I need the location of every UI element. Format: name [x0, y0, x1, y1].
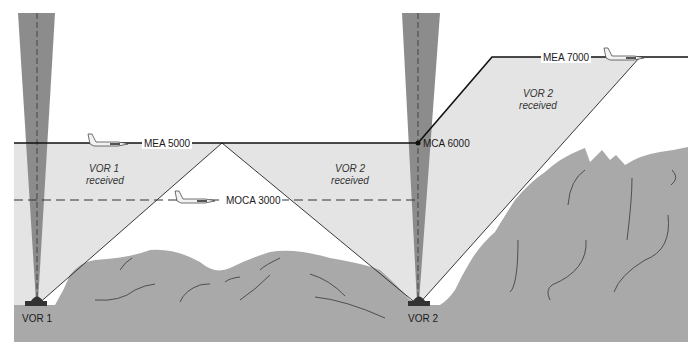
aircraft-icon — [88, 134, 128, 146]
mca-6000-label: MCA 6000 — [423, 138, 470, 149]
moca-3000-label: MOCA 3000 — [224, 195, 282, 206]
vor2-high-received-label: VOR 2 received — [518, 88, 558, 112]
mca-point — [416, 141, 421, 146]
aircraft-icon — [604, 48, 644, 60]
vor1-station-label: VOR 1 — [22, 313, 52, 324]
vor1-received-label: VOR 1 received — [86, 163, 122, 187]
mea-7000-label: MEA 7000 — [541, 52, 591, 63]
mea-5000-label: MEA 5000 — [142, 138, 192, 149]
vor2-received-label: VOR 2 received — [330, 163, 370, 187]
vor2-station-label: VOR 2 — [408, 313, 438, 324]
aircraft-icon — [175, 191, 215, 203]
